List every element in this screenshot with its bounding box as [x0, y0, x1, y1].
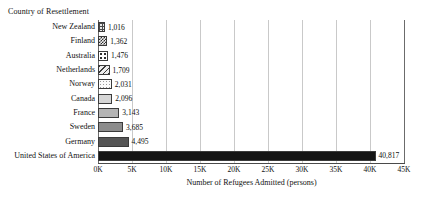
x-axis-baseline — [98, 163, 405, 164]
x-tick-label-30K: 30K — [296, 165, 309, 174]
bar-united-states-of-america[interactable] — [98, 151, 376, 161]
x-tick-label-0K: 0K — [93, 165, 102, 174]
category-label-france: France — [0, 109, 95, 117]
bar-value-label: 1,709 — [113, 66, 130, 75]
x-tick-label-10K: 10K — [160, 165, 173, 174]
bar-finland[interactable] — [98, 36, 107, 46]
bar-row: 3,685 — [98, 122, 404, 132]
y-axis-title: Country of Resettlement — [8, 7, 89, 16]
bar-value-label: 2,096 — [115, 94, 132, 103]
bar-norway[interactable] — [98, 79, 112, 89]
bar-canada[interactable] — [98, 94, 112, 104]
category-label-australia: Australia — [0, 52, 95, 60]
bar-chart: Country of Resettlement New ZealandFinla… — [0, 0, 431, 204]
category-label-netherlands: Netherlands — [0, 66, 95, 74]
category-label-finland: Finland — [0, 37, 95, 45]
x-tick-label-25K: 25K — [262, 165, 275, 174]
x-tick-label-5K: 5K — [127, 165, 136, 174]
bar-row: 2,096 — [98, 94, 404, 104]
bar-australia[interactable] — [98, 51, 108, 61]
bar-row: 40,817 — [98, 151, 404, 161]
x-tick-label-45K: 45K — [398, 165, 411, 174]
category-label-new-zealand: New Zealand — [0, 23, 95, 31]
bar-value-label: 1,016 — [108, 23, 125, 32]
category-label-united-states-of-america: United States of America — [0, 152, 95, 160]
bar-new-zealand[interactable] — [98, 22, 105, 32]
category-axis-labels: New ZealandFinlandAustraliaNetherlandsNo… — [0, 20, 95, 163]
x-tick-label-15K: 15K — [194, 165, 207, 174]
bar-series: 1,0161,3621,4761,7092,0312,0963,1433,685… — [98, 20, 404, 163]
bar-row: 3,143 — [98, 108, 404, 118]
x-tick-label-20K: 20K — [228, 165, 241, 174]
gridline-45K — [404, 20, 405, 163]
bar-row: 2,031 — [98, 79, 404, 89]
category-label-sweden: Sweden — [0, 123, 95, 131]
bar-row: 1,016 — [98, 22, 404, 32]
bar-value-label: 1,476 — [111, 51, 128, 60]
bar-sweden[interactable] — [98, 122, 123, 132]
category-label-germany: Germany — [0, 138, 95, 146]
x-tick-label-35K: 35K — [330, 165, 343, 174]
bar-row: 1,362 — [98, 36, 404, 46]
bar-row: 4,495 — [98, 137, 404, 147]
x-tick-label-40K: 40K — [364, 165, 377, 174]
plot-area: 1,0161,3621,4761,7092,0312,0963,1433,685… — [98, 20, 404, 163]
bar-row: 1,709 — [98, 65, 404, 75]
bar-value-label: 4,495 — [132, 137, 149, 146]
bar-row: 1,476 — [98, 51, 404, 61]
x-axis-ticks: 0K5K10K15K20K25K30K35K40K45K — [98, 165, 405, 177]
bar-value-label: 2,031 — [115, 80, 132, 89]
x-axis-title: Number of Refugees Admitted (persons) — [98, 178, 405, 187]
bar-france[interactable] — [98, 108, 119, 118]
bar-value-label: 40,817 — [379, 151, 400, 160]
category-label-norway: Norway — [0, 80, 95, 88]
bar-netherlands[interactable] — [98, 65, 110, 75]
bar-value-label: 3,685 — [126, 123, 143, 132]
category-label-canada: Canada — [0, 95, 95, 103]
bar-value-label: 3,143 — [122, 108, 139, 117]
bar-value-label: 1,362 — [110, 37, 127, 46]
bar-germany[interactable] — [98, 137, 129, 147]
